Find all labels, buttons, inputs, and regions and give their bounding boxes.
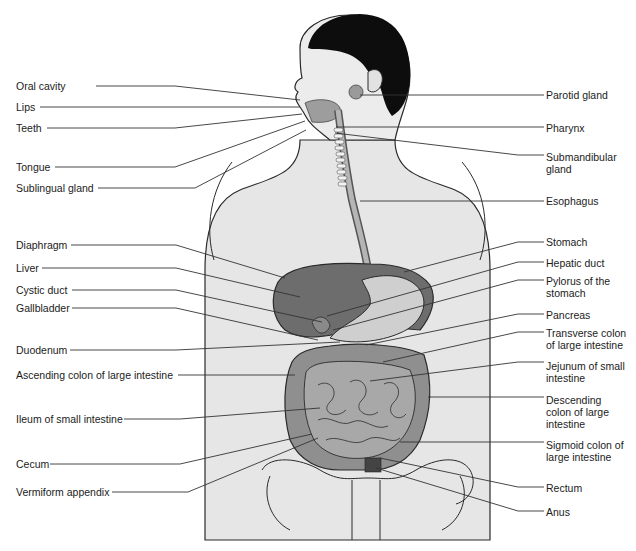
leader-line-oral-cavity [96, 86, 300, 100]
label-hepatic-duct: Hepatic duct [546, 257, 636, 269]
label-jejunum: Jejunum of small intestine [546, 360, 626, 384]
label-duodenum: Duodenum [16, 344, 67, 356]
label-ascending-colon: Ascending colon of large intestine [16, 369, 173, 381]
label-ileum: Ileum of small intestine [16, 413, 123, 425]
label-vermiform-appendix: Vermiform appendix [16, 486, 109, 498]
label-liver: Liver [16, 262, 39, 274]
label-stomach: Stomach [546, 236, 636, 248]
label-parotid-gland: Parotid gland [546, 89, 636, 101]
label-pancreas: Pancreas [546, 309, 636, 321]
label-pharynx: Pharynx [546, 122, 636, 134]
digestive-system-figure [0, 0, 636, 551]
label-gallbladder: Gallbladder [16, 302, 70, 314]
label-pylorus: Pylorus of the stomach [546, 275, 626, 299]
label-rectum: Rectum [546, 482, 636, 494]
leader-line-teeth [47, 114, 302, 128]
label-lips: Lips [16, 101, 35, 113]
label-tongue: Tongue [16, 161, 50, 173]
label-teeth: Teeth [16, 122, 42, 134]
label-sublingual-gland: Sublingual gland [16, 182, 94, 194]
label-anus: Anus [546, 506, 636, 518]
label-diaphragm: Diaphragm [16, 239, 67, 251]
label-descending-colon: Descending colon of large intestine [546, 394, 616, 430]
label-transverse-colon: Transverse colon of large intestine [546, 327, 632, 351]
head [295, 14, 410, 140]
label-esophagus: Esophagus [546, 195, 636, 207]
label-sigmoid-colon: Sigmoid colon of large intestine [546, 439, 632, 463]
label-cystic-duct: Cystic duct [16, 284, 67, 296]
large-intestine [285, 344, 430, 472]
label-oral-cavity: Oral cavity [16, 80, 66, 92]
label-cecum: Cecum [16, 458, 49, 470]
label-submandibular-gland: Submandibular gland [546, 151, 626, 175]
